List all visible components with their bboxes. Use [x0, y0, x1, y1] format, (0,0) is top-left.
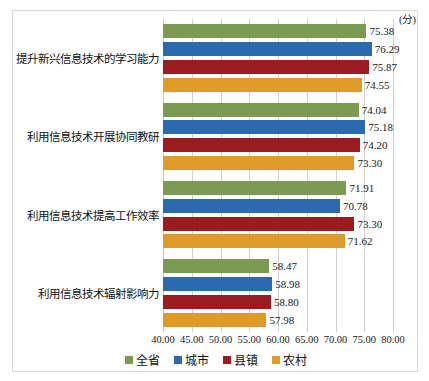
bar-row: 58.47: [163, 259, 393, 273]
bar-row: 57.98: [163, 313, 393, 327]
x-tick-label: 70.00: [324, 334, 348, 345]
category-group: 提升新兴信息技术的学习能力75.3876.2975.8774.55: [163, 19, 393, 97]
bar-value-label: 71.91: [346, 182, 374, 194]
x-tick-label: 60.00: [266, 334, 290, 345]
bar-农村[interactable]: [163, 78, 362, 92]
bar-全省[interactable]: [163, 24, 366, 38]
bar-value-label: 76.29: [372, 43, 400, 55]
legend-item-城市[interactable]: 城市: [174, 351, 209, 369]
bar-value-label: 57.98: [266, 314, 294, 326]
bar-row: 74.20: [163, 138, 393, 152]
category-group: 利用信息技术辐射影响力58.4758.9858.8057.98: [163, 254, 393, 332]
bar-value-label: 58.80: [271, 296, 299, 308]
x-tick-label: 40.00: [151, 334, 175, 345]
bar-value-label: 74.04: [359, 104, 387, 116]
x-tick-label: 50.00: [209, 334, 233, 345]
bar-row: 71.91: [163, 181, 393, 195]
bar-row: 76.29: [163, 42, 393, 56]
bar-row: 74.04: [163, 103, 393, 117]
bar-城市[interactable]: [163, 42, 372, 56]
bar-value-label: 75.18: [365, 121, 393, 133]
bar-城市[interactable]: [163, 120, 365, 134]
category-group: 利用信息技术开展协同教研74.0475.1874.2073.30: [163, 97, 393, 175]
chart-legend: 全省城市县镇农村: [13, 351, 419, 369]
bar-全省[interactable]: [163, 103, 359, 117]
bar-value-label: 58.98: [272, 278, 300, 290]
bar-县镇[interactable]: [163, 295, 271, 309]
bar-县镇[interactable]: [163, 138, 360, 152]
bar-value-label: 75.87: [369, 61, 397, 73]
legend-label: 全省: [136, 351, 160, 369]
chart-container: 提升新兴信息技术的学习能力75.3876.2975.8774.55利用信息技术开…: [12, 10, 418, 372]
legend-item-县镇[interactable]: 县镇: [223, 351, 258, 369]
bar-row: 75.38: [163, 24, 393, 38]
bar-城市[interactable]: [163, 199, 340, 213]
x-axis-tick-labels: 40.0045.0050.0055.0060.0065.0070.0075.00…: [13, 334, 419, 350]
legend-swatch-icon: [174, 356, 182, 364]
bar-县镇[interactable]: [163, 217, 354, 231]
bar-value-label: 74.20: [360, 139, 388, 151]
bar-value-label: 73.30: [354, 157, 382, 169]
legend-swatch-icon: [125, 356, 133, 364]
bar-value-label: 70.78: [340, 200, 368, 212]
bar-value-label: 58.47: [269, 260, 297, 272]
category-label: 提升新兴信息技术的学习能力: [16, 50, 159, 66]
bar-农村[interactable]: [163, 156, 354, 170]
category-label: 利用信息技术开展协同教研: [27, 128, 159, 144]
legend-item-农村[interactable]: 农村: [272, 351, 307, 369]
bar-全省[interactable]: [163, 259, 269, 273]
legend-swatch-icon: [272, 356, 280, 364]
bar-value-label: 74.55: [362, 79, 390, 91]
category-label: 利用信息技术辐射影响力: [38, 285, 159, 301]
bar-row: 70.78: [163, 199, 393, 213]
category-group: 利用信息技术提高工作效率71.9170.7873.3071.62: [163, 176, 393, 254]
bar-row: 71.62: [163, 234, 393, 248]
bar-value-label: 71.62: [345, 235, 373, 247]
category-label: 利用信息技术提高工作效率: [27, 207, 159, 223]
bar-城市[interactable]: [163, 277, 272, 291]
x-tick-label: 80.00: [381, 334, 405, 345]
x-tick-label: 55.00: [237, 334, 261, 345]
bar-全省[interactable]: [163, 181, 346, 195]
bar-农村[interactable]: [163, 313, 266, 327]
bar-row: 74.55: [163, 78, 393, 92]
x-tick-label: 45.00: [180, 334, 204, 345]
bar-row: 75.87: [163, 60, 393, 74]
bar-row: 58.98: [163, 277, 393, 291]
x-tick-label: 75.00: [352, 334, 376, 345]
bar-row: 73.30: [163, 156, 393, 170]
legend-item-全省[interactable]: 全省: [125, 351, 160, 369]
bar-县镇[interactable]: [163, 60, 369, 74]
bar-农村[interactable]: [163, 234, 345, 248]
bar-value-label: 73.30: [354, 218, 382, 230]
legend-label: 农村: [283, 351, 307, 369]
bar-row: 73.30: [163, 217, 393, 231]
x-axis-unit-label: (分): [399, 11, 416, 26]
legend-label: 城市: [185, 351, 209, 369]
bar-row: 75.18: [163, 120, 393, 134]
legend-swatch-icon: [223, 356, 231, 364]
bar-value-label: 75.38: [366, 25, 394, 37]
plot-area: 提升新兴信息技术的学习能力75.3876.2975.8774.55利用信息技术开…: [163, 19, 393, 332]
x-tick-label: 65.00: [295, 334, 319, 345]
bar-row: 58.80: [163, 295, 393, 309]
legend-label: 县镇: [234, 351, 258, 369]
